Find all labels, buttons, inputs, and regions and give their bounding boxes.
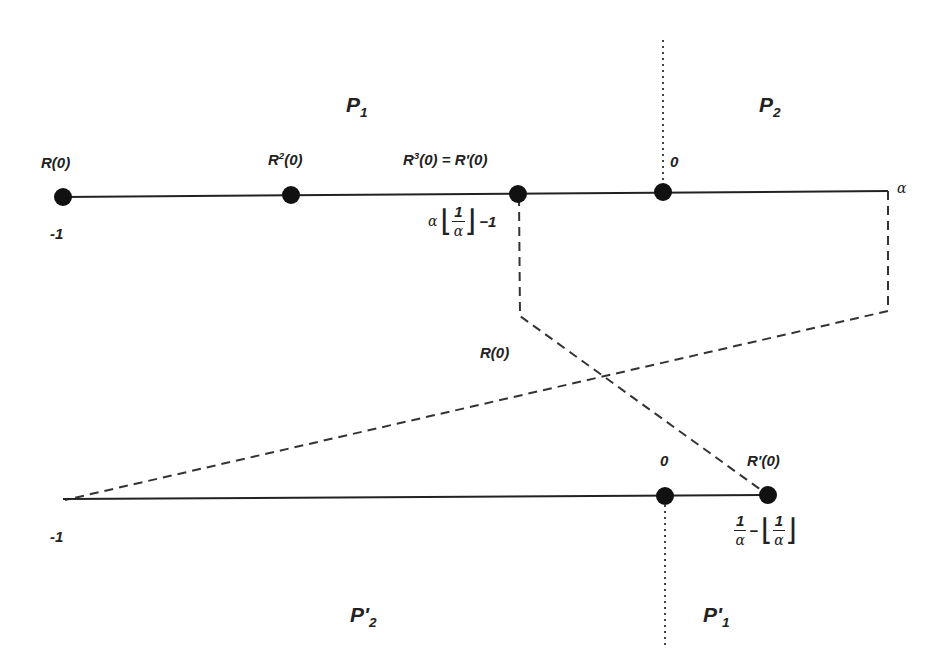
point-zero-bottom: [656, 487, 674, 505]
label-frac-part-inv-alpha: 1 α − ⌊ 1 α ⌋: [734, 513, 797, 547]
fraction-one-over-alpha-3: 1 α: [773, 513, 785, 547]
region-p2prime-base: P': [350, 603, 369, 626]
label-zero-bottom: 0: [660, 452, 668, 469]
region-label-p1-prime: P'1: [703, 603, 730, 630]
dashed-map-p1: [519, 197, 768, 495]
fraction-numerator: 1: [452, 204, 464, 222]
fraction-one-over-alpha: 1 α: [452, 204, 464, 238]
r3-tail: (0) = R'(0): [419, 151, 487, 168]
label-R2-0: R2(0): [268, 150, 303, 168]
label-minus-one-bottom: -1: [50, 528, 63, 545]
region-p1-sub: 1: [360, 105, 368, 120]
interval-exchange-diagram: [0, 0, 947, 670]
fraction-denominator-2: α: [735, 531, 744, 547]
label-R0: R(0): [41, 154, 70, 171]
label-Rprime-0-bottom: R'(0): [747, 452, 780, 469]
r2-tail: (0): [284, 151, 302, 168]
lfloor-symbol: ⌊: [440, 206, 452, 236]
region-p1prime-base: P': [703, 603, 722, 626]
r2-base: R: [268, 151, 279, 168]
top-interval-line: [63, 191, 888, 197]
point-R0: [54, 188, 72, 206]
lfloor-symbol-2: ⌊: [761, 515, 773, 545]
point-zero-top: [654, 183, 672, 201]
rfloor-symbol-2: ⌋: [785, 515, 797, 545]
rfloor-symbol: ⌋: [465, 206, 477, 236]
label-minus-one-top: -1: [50, 225, 63, 242]
label-R3-0-eq-Rprime-0: R3(0) = R'(0): [403, 150, 487, 168]
label-R0-middle: R(0): [480, 344, 509, 361]
region-p2-base: P: [759, 93, 773, 116]
region-p1-base: P: [346, 93, 360, 116]
region-p2-sub: 2: [773, 105, 781, 120]
alpha-symbol: α: [428, 213, 437, 229]
fraction-one-over-alpha-2: 1 α: [734, 513, 746, 547]
region-label-p2-prime: P'2: [350, 603, 377, 630]
floor-bracket-group-2: ⌊ 1 α ⌋: [761, 513, 797, 547]
region-p1prime-sub: 1: [722, 615, 730, 630]
minus-symbol: −: [749, 522, 758, 539]
r3-base: R: [403, 151, 414, 168]
label-zero-top: 0: [670, 153, 678, 170]
minus-one-term: −1: [479, 213, 496, 230]
fraction-numerator-3: 1: [773, 513, 785, 531]
floor-bracket-group: ⌊ 1 α ⌋: [440, 204, 476, 238]
label-alpha-floor-inv-alpha-minus-one: α ⌊ 1 α ⌋ −1: [428, 204, 496, 238]
point-R2-0: [282, 186, 300, 204]
fraction-numerator-2: 1: [734, 513, 746, 531]
point-Rprime-0: [759, 486, 777, 504]
point-R3-0: [509, 185, 527, 203]
label-alpha-end: α: [897, 180, 906, 196]
fraction-denominator: α: [454, 222, 463, 238]
region-label-p1: P1: [346, 93, 368, 120]
fraction-denominator-3: α: [774, 531, 783, 547]
region-p2prime-sub: 2: [369, 615, 377, 630]
region-label-p2: P2: [759, 93, 781, 120]
